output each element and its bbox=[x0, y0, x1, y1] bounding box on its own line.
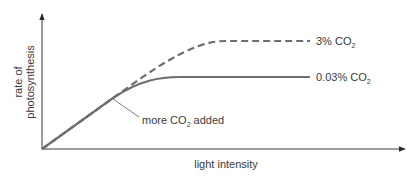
annotation-more-co2-added: more CO2 added bbox=[142, 114, 224, 128]
photosynthesis-chart: more CO2 added 3% CO2 0.03% CO2 light in… bbox=[0, 0, 416, 186]
curve-3pct-co2 bbox=[42, 41, 310, 149]
curve-003pct-co2 bbox=[42, 77, 310, 149]
y-axis-label-line2: photosynthesis bbox=[24, 45, 36, 119]
annotation-leader-line bbox=[113, 99, 139, 117]
y-axis-label-line1: rate of bbox=[12, 65, 24, 97]
x-axis-label: light intensity bbox=[194, 158, 258, 170]
series-label-3pct-co2: 3% CO2 bbox=[316, 35, 355, 49]
series-label-003pct-co2: 0.03% CO2 bbox=[316, 71, 371, 85]
